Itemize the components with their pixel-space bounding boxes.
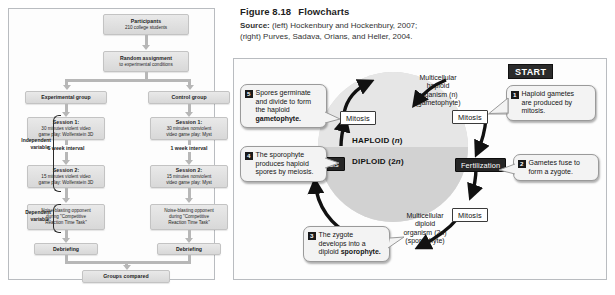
haploid-organism-line3: organism (n) (392, 91, 484, 99)
callout-1-line2: are produced by (522, 99, 573, 106)
callout-2-text: Gametes fuse to form a zygote. (529, 159, 580, 176)
label-haploid-organism: Multicellular haploid organism (n) (game… (392, 74, 484, 108)
figure-source: Source: (left) Hockenbury and Hockenbury… (240, 20, 610, 42)
diploid-organism-line2: diploid (379, 220, 471, 228)
callout-4-line3: spores by meiosis. (256, 168, 314, 175)
arrow-fertilization-to-mitosis (471, 168, 476, 196)
callout-5-line4: gametophyte. (256, 115, 302, 122)
callout-5-tail (325, 110, 345, 126)
callout-2: 2 Gametes fuse to form a zygote. (513, 154, 599, 181)
callout-4-tail (325, 156, 345, 172)
diploid-organism-line1: Multicellular (379, 212, 471, 220)
callout-4: 4 The sporophyte produces haploid spores… (240, 146, 327, 182)
bracket-independent-variable (53, 115, 61, 192)
callout-3-line1: The zygote (319, 231, 354, 238)
box-exp-debriefing: Debriefing (34, 243, 98, 255)
box-control-group-label: Control group (171, 94, 206, 101)
stage-mitosis-top-right[interactable]: Mitosis (452, 110, 488, 124)
box-ctl-debriefing: Debriefing (157, 243, 221, 255)
callout-1-line3: mitosis. (522, 107, 546, 114)
box-ctl-dependent-measure: Noise-blasting opponent during "Competit… (150, 204, 228, 230)
callout-3-tail (388, 236, 410, 254)
source-label: Source: (240, 21, 270, 30)
callout-1: 1 Haploid gametes are produced by mitosi… (506, 85, 596, 121)
callout-5-text: Spores germinate and divide to form the … (256, 89, 312, 123)
box-ctl-session1-title: Session 1: (176, 119, 202, 126)
figure-title: Flowcharts (298, 6, 349, 17)
callout-5-line1: Spores germinate (256, 89, 311, 96)
box-ctl-session2-line3: video game play: Myst (166, 180, 212, 186)
bracket-dependent-variable (53, 204, 61, 233)
box-control-group: Control group (148, 91, 230, 104)
callout-2-number: 2 (518, 160, 526, 168)
split-bar (65, 79, 191, 82)
arrowhead-to-control (186, 85, 194, 90)
callout-4-number: 4 (245, 152, 253, 160)
callout-1-line1: Haploid gametes (522, 90, 575, 97)
arrow-to-mitosis-top-left (344, 82, 370, 113)
arrowhead-ctl-s2-to-dv (185, 198, 193, 203)
label-independent-variable: Independent variable: (5, 137, 51, 151)
haploid-organism-line4: (gametophyte) (392, 99, 484, 107)
box-exp-session2-line3: game play: Wolfenstein 3D (39, 180, 94, 186)
box-exp-dv-line3: Reaction Time Task" (45, 220, 87, 226)
figure-canvas: Figure 8.18Flowcharts Source: (left) Hoc… (0, 0, 615, 295)
label-ctl-week-interval: 1 week interval (150, 145, 228, 151)
start-badge: START (508, 64, 553, 79)
label-independent-variable-line2: variable: (5, 144, 51, 151)
left-flowchart-panel: Participants 210 college students Random… (8, 8, 215, 280)
box-ctl-session1: Session 1: 30 minutes nonviolent video g… (150, 117, 228, 140)
box-ctl-session1-line3: video game play: Myst (166, 132, 212, 138)
figure-title-line: Figure 8.18Flowcharts (240, 6, 610, 17)
arrowhead-participants-to-random (142, 45, 150, 50)
callout-1-text: Haploid gametes are produced by mitosis. (522, 90, 575, 116)
haploid-organism-line2: haploid (392, 82, 484, 90)
callout-3-text: The zygote develops into a diploid sporo… (319, 231, 381, 257)
source-line-2: (right) Purves, Sadava, Orians, and Hell… (240, 31, 610, 42)
box-experimental-group: Experimental group (25, 91, 107, 104)
box-experimental-group-label: Experimental group (41, 94, 91, 101)
arrowhead-exp-s2-to-dv (62, 198, 70, 203)
box-ctl-debriefing-label: Debriefing (176, 246, 202, 253)
callout-1-tail (486, 96, 510, 118)
callout-3-line2: develops into a (319, 240, 366, 247)
arrowhead-to-experimental (63, 85, 71, 90)
box-participants: Participants 210 college students (103, 14, 189, 35)
callout-5-number: 5 (245, 90, 253, 98)
callout-2-line2: form a zygote. (529, 168, 573, 175)
callout-5-line2: and divide to form (256, 98, 312, 105)
callout-4-text: The sporophyte produces haploid spores b… (256, 151, 314, 177)
callout-5: 5 Spores germinate and divide to form th… (240, 84, 327, 128)
callout-4-line1: The sporophyte (256, 151, 305, 158)
callout-2-line1: Gametes fuse to (529, 159, 580, 166)
box-groups-compared: Groups compared (82, 270, 170, 283)
box-ctl-session2: Session 2: 15 minutes nonviolent video g… (150, 165, 228, 188)
box-groups-compared-label: Groups compared (103, 273, 148, 280)
box-random-assignment: Random assignment to experimental condit… (103, 51, 189, 72)
box-ctl-session2-title: Session 2: (176, 167, 202, 174)
callout-3-number: 3 (308, 232, 316, 240)
box-random-detail: to experimental conditions (119, 62, 172, 68)
box-participants-title: Participants (131, 18, 161, 25)
box-ctl-dv-line3: Reaction Time Task" (168, 220, 210, 226)
box-participants-detail: 210 college students (125, 25, 167, 31)
stage-mitosis-top-left[interactable]: Mitosis (340, 111, 376, 125)
haploid-organism-line1: Multicellular (392, 74, 484, 82)
label-independent-variable-line1: Independent (5, 137, 51, 144)
label-dependent-variable: Dependent variable: (5, 209, 51, 223)
callout-2-tail (495, 162, 517, 178)
box-exp-session2: Session 2: 15 minutes violent video game… (27, 165, 105, 188)
callout-3: 3 The zygote develops into a diploid spo… (303, 226, 390, 262)
callout-4-line2: produces haploid (256, 160, 309, 167)
callout-5-line3: the haploid (256, 106, 290, 113)
figure-number: Figure 8.18 (240, 6, 291, 17)
callout-3-line3: diploid sporophyte. (319, 248, 381, 255)
label-dependent-variable-line2: variable: (5, 216, 51, 223)
callout-1-number: 1 (511, 91, 519, 99)
box-random-title: Random assignment (120, 55, 172, 62)
source-line-1: (left) Hockenbury and Hockenbury, 2007; (272, 21, 417, 30)
box-exp-debriefing-label: Debriefing (53, 246, 79, 253)
label-dependent-variable-line1: Dependent (5, 209, 51, 216)
figure-caption: Figure 8.18Flowcharts Source: (left) Hoc… (240, 6, 610, 42)
